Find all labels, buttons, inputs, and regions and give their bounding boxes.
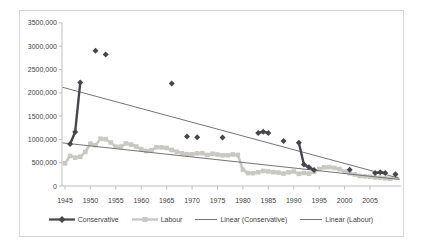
legend-label-linear-conservative: Linear (Conservative) — [220, 215, 287, 224]
x-axis-label: 1985 — [261, 197, 277, 204]
legend-label-labour: Labour — [161, 215, 183, 224]
x-axis-label: 1995 — [311, 197, 327, 204]
linear-labour-marker-icon — [300, 215, 322, 224]
x-axis-label: 1950 — [83, 197, 99, 204]
y-axis-label: 1500,000 — [28, 113, 57, 120]
y-axis-label: 1000,000 — [28, 136, 57, 143]
x-axis-tick-labels: 1945 1950 1955 1960 1965 1970 1975 1980 … — [57, 197, 378, 204]
x-axis-label: 1970 — [184, 197, 200, 204]
legend-item-labour: Labour — [132, 215, 183, 224]
x-axis-label: 1945 — [57, 197, 73, 204]
y-axis-label: 2000,000 — [28, 89, 57, 96]
x-axis-label: 2005 — [362, 197, 378, 204]
labour-series-marker-icon — [132, 215, 158, 224]
x-axis-label: 1990 — [286, 197, 302, 204]
x-axis-label: 1980 — [235, 197, 251, 204]
legend-item-linear-labour: Linear (Labour) — [300, 215, 373, 224]
legend-item-conservative: Conservative — [49, 215, 119, 224]
y-axis-label: 3000,000 — [28, 43, 57, 50]
legend-label-conservative: Conservative — [78, 215, 119, 224]
conservative-series-marker-icon — [49, 215, 75, 224]
x-axis-label: 2000 — [337, 197, 353, 204]
y-axis-label: 2500,000 — [28, 66, 57, 73]
y-axis-label: 500,000 — [32, 159, 57, 166]
plot-area — [59, 23, 401, 190]
linear-conservative-marker-icon — [195, 215, 217, 224]
chart-image: 3500,000 3000,000 2500,000 2000,000 1500… — [0, 0, 425, 252]
y-axis-label: 3500,000 — [28, 19, 57, 26]
x-axis-label: 1975 — [210, 197, 226, 204]
chart-legend: Conservative Labour Linear (Conservative… — [19, 215, 403, 224]
legend-item-linear-conservative: Linear (Conservative) — [195, 215, 287, 224]
y-axis-label: 0 — [53, 183, 57, 190]
x-axis-label: 1965 — [159, 197, 175, 204]
legend-label-linear-labour: Linear (Labour) — [325, 215, 373, 224]
x-axis-label: 1960 — [133, 197, 149, 204]
y-axis-tick-labels: 3500,000 3000,000 2500,000 2000,000 1500… — [28, 19, 57, 189]
x-axis-label: 1955 — [108, 197, 124, 204]
